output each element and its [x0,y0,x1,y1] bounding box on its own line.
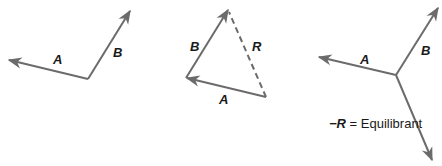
vector-a-arrow [9,60,88,79]
label-r: R [252,39,262,54]
vector-b-arrow [396,8,438,75]
figure-resultant-triangle: B R A [186,10,266,107]
label-b: B [113,45,122,60]
resultant-r-dashed [229,12,266,97]
label-a: A [52,52,62,67]
figure-equilibrant: A B −R = Equilibrant [319,8,438,160]
label-a: A [218,92,228,107]
vector-diagram: A B B R A A B −R = Equilibrant [0,0,442,166]
vector-a-arrow [319,57,396,75]
figure-vectors-a-b: A B [9,11,130,79]
equilibrant-text: = Equilibrant [346,116,423,131]
label-a: A [359,52,369,67]
label-b: B [421,43,430,58]
neg-r-label: −R [329,116,347,131]
equilibrant-caption: −R = Equilibrant [329,116,423,131]
vector-b-arrow [88,11,130,79]
label-b: B [190,39,199,54]
